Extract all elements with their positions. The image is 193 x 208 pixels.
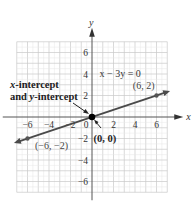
annotation-line2: and y-intercept	[10, 91, 78, 102]
point-label: (−6, −2)	[35, 140, 68, 152]
point-label: (6, 2)	[133, 80, 155, 92]
coordinate-plane: xy−6−4−20246−6−4−2246x − 3y = 0(6, 2)(−6…	[0, 0, 193, 208]
x-tick-label: 4	[133, 120, 138, 130]
x-tick-label: −4	[44, 120, 54, 130]
origin-label: (0, 0)	[94, 133, 117, 145]
y-tick-label: 6	[83, 48, 88, 58]
y-axis-label: y	[88, 17, 94, 28]
data-point	[154, 93, 158, 97]
x-tick-label: 0	[84, 120, 89, 130]
y-tick-label: 4	[83, 70, 88, 80]
annotation-line1: x-intercept	[9, 79, 59, 90]
x-axis-arrow-icon	[174, 114, 183, 120]
equation-label: x − 3y = 0	[100, 68, 141, 79]
y-tick-label: −6	[78, 177, 88, 187]
annotation-arrow-line	[73, 103, 86, 112]
y-axis-arrow-icon	[89, 28, 95, 37]
y-tick-label: 2	[83, 91, 88, 101]
y-tick-label: −2	[78, 134, 88, 144]
x-tick-label: 2	[111, 120, 116, 130]
y-tick-label: −4	[78, 156, 88, 166]
x-axis-label: x	[185, 111, 191, 122]
data-point	[25, 136, 29, 140]
data-point	[89, 114, 96, 121]
x-tick-label: −6	[22, 120, 32, 130]
x-tick-label: 6	[154, 120, 159, 130]
